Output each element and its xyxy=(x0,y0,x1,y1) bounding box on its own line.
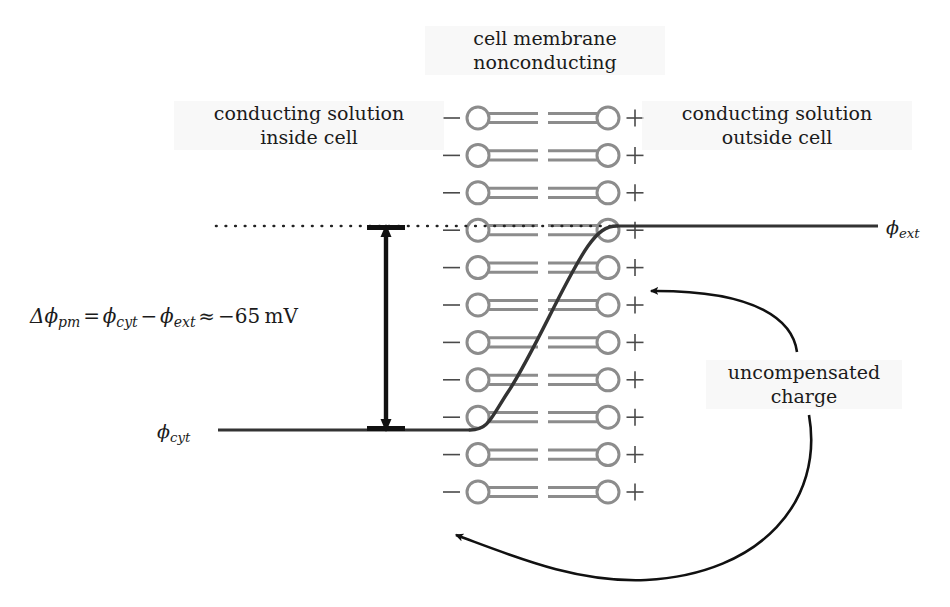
lipid-head-icon xyxy=(597,369,619,391)
lipid-head-icon xyxy=(467,144,489,166)
phi-cyt-label: ϕcyt xyxy=(157,420,190,445)
lipid-head-icon xyxy=(597,444,619,466)
equation-approx: ≈ xyxy=(196,304,218,328)
phi-cyt-symbol: ϕ xyxy=(157,420,170,442)
lipid-head-icon xyxy=(467,107,489,129)
uncompensated-charge-arrow-upper xyxy=(651,291,797,352)
lipid-head-icon xyxy=(597,331,619,353)
phi-ext-subscript: ext xyxy=(899,226,920,241)
phi-ext-label: ϕext xyxy=(886,216,920,241)
delta-phi-equation: Δϕpm=ϕcyt−ϕext≈−65mV xyxy=(30,304,298,330)
lipid-head-icon xyxy=(597,406,619,428)
lipid-head-icon xyxy=(597,481,619,503)
lipid-head-icon xyxy=(597,294,619,316)
membrane-title-label: cell membrane nonconducting xyxy=(425,26,665,75)
equation-sub-ext: ext xyxy=(174,314,196,330)
lipid-head-icon xyxy=(467,219,489,241)
equation-phi-3: ϕ xyxy=(160,304,174,328)
lipid-head-icon xyxy=(597,107,619,129)
lipid-head-icon xyxy=(467,182,489,204)
membrane-potential-diagram: cell membrane nonconducting conducting s… xyxy=(0,0,950,607)
lipid-head-icon xyxy=(597,144,619,166)
equation-sub-pm: pm xyxy=(58,314,80,330)
lipid-head-icon xyxy=(467,369,489,391)
equation-unit: mV xyxy=(260,304,298,328)
delta-phi-measure-arrow xyxy=(367,224,405,432)
equation-delta: Δ xyxy=(30,304,44,328)
equation-phi-2: ϕ xyxy=(103,304,117,328)
transmembrane-potential-ramp xyxy=(470,226,617,430)
inside-solution-label: conducting solution inside cell xyxy=(174,101,444,150)
lipid-head-icon xyxy=(597,257,619,279)
phospholipid-bilayer xyxy=(467,107,619,503)
equation-sub-cyt: cyt xyxy=(116,314,137,330)
outside-solution-label: conducting solution outside cell xyxy=(642,101,912,150)
lipid-head-icon xyxy=(467,481,489,503)
phi-cyt-subscript: cyt xyxy=(170,430,190,445)
lipid-head-icon xyxy=(467,444,489,466)
uncompensated-charge-label: uncompensated charge xyxy=(706,360,902,409)
lipid-head-icon xyxy=(467,331,489,353)
phi-ext-symbol: ϕ xyxy=(886,216,899,238)
equation-equals: = xyxy=(80,304,102,328)
equation-value: −65 xyxy=(218,304,260,328)
lipid-head-icon xyxy=(597,182,619,204)
equation-minus: − xyxy=(138,304,160,328)
equation-phi-1: ϕ xyxy=(44,304,58,328)
lipid-head-icon xyxy=(467,257,489,279)
lipid-head-icon xyxy=(467,294,489,316)
